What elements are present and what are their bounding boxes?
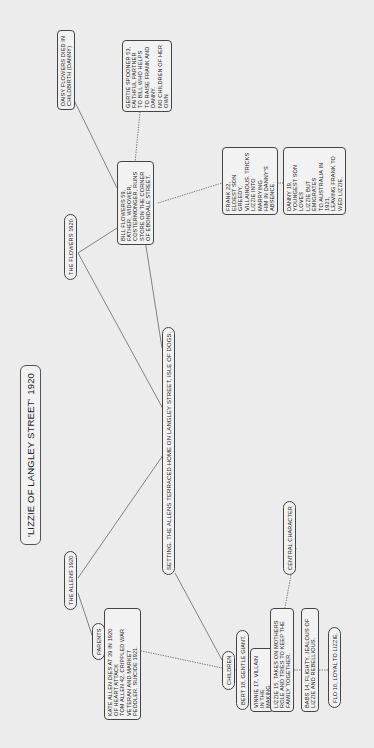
parents-detail-node: KATE ALLEN DIES AT 39 IN 1920 OF HEART A… bbox=[104, 608, 141, 720]
bill-node: BILL FLOWERS 59, FATHER, WIDOWER, COSTER… bbox=[117, 161, 154, 245]
frank-node: FRANK 22, ELDEST SON GREEDY, VILLAINOUS.… bbox=[222, 147, 278, 215]
diagram-title: 'LIZZIE OF LANGLEY STREET'1920 bbox=[20, 365, 41, 545]
gertie-node: GERTIE SPOONER 53, FAITHFUL PARTNER TO B… bbox=[122, 40, 172, 112]
child-flo-node: FLO 10, LOYAL TO LIZZIE. bbox=[328, 627, 341, 708]
allens-node: THE ALLENS 1920 bbox=[64, 551, 77, 610]
title-name: 'LIZZIE OF LANGLEY STREET' bbox=[25, 399, 36, 537]
children-node: CHILDREN bbox=[222, 651, 235, 690]
central-character-node: CENTRAL CHARACTER bbox=[283, 501, 296, 575]
daisy-node: DAISY FLOWERS DIED IN CHILDBIRTH (DANNY) bbox=[57, 30, 75, 110]
child-bert-node: BERT 18, GENTLE GIANT. bbox=[236, 630, 249, 710]
child-babs-node: BABS 14, FLIGHTY, JEALOUS OF LIZZIE AND … bbox=[301, 608, 319, 712]
child-lizzie-node: LIZZIE 15, TAKES ON MOTHERS ROLE AND TRI… bbox=[270, 608, 294, 712]
danny-node: DANNY 19, YOUNGEST SON LOVES LIZZIE BUT … bbox=[283, 147, 346, 215]
flowers-node: THE FLOWERS 1920 bbox=[64, 214, 77, 280]
mind-map-canvas: 'LIZZIE OF LANGLEY STREET'1920 SETTING. … bbox=[0, 0, 374, 748]
title-year: 1920 bbox=[25, 373, 36, 395]
setting-node: SETTING. THE ALLENS TERRACED HOME ON LAN… bbox=[162, 327, 175, 575]
